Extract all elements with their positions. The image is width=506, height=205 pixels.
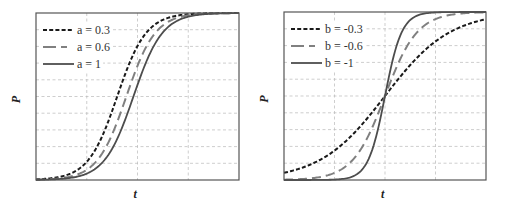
chart-panel-b: b = -0.3b = -0.6b = -1tP xyxy=(253,0,506,205)
legend-item: a = 0.3 xyxy=(41,22,112,38)
legend-item: b = -0.3 xyxy=(289,21,365,37)
chart-panel-a: a = 0.3a = 0.6a = 1tP xyxy=(0,0,253,205)
gridlines xyxy=(36,13,239,180)
legend-label: b = -0.3 xyxy=(325,22,363,36)
chart-b-svg: b = -0.3b = -0.6b = -1tP xyxy=(253,0,506,205)
y-axis-label: P xyxy=(9,95,23,103)
legend-label: a = 0.6 xyxy=(77,40,110,54)
legend: a = 0.3a = 0.6a = 1 xyxy=(41,22,112,72)
x-axis-label: t xyxy=(381,187,385,201)
x-axis-label: t xyxy=(134,187,138,201)
legend: b = -0.3b = -0.6b = -1 xyxy=(289,21,365,71)
legend-item: a = 0.6 xyxy=(41,39,112,55)
legend-label: a = 1 xyxy=(77,57,101,71)
y-axis-label: P xyxy=(257,95,271,103)
legend-label: b = -0.6 xyxy=(325,39,363,53)
legend-item: b = -0.6 xyxy=(289,38,365,54)
legend-item: b = -1 xyxy=(289,55,356,71)
legend-item: a = 1 xyxy=(41,56,103,72)
chart-a-svg: a = 0.3a = 0.6a = 1tP xyxy=(0,0,253,205)
legend-label: a = 0.3 xyxy=(77,23,110,37)
legend-label: b = -1 xyxy=(325,56,354,70)
